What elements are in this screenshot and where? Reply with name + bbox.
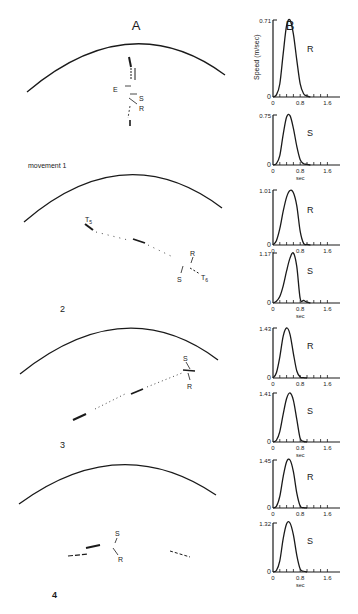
panel-a-label: A — [132, 18, 141, 33]
y-max-label: 1.45 — [259, 458, 271, 464]
y-max-label: 1.32 — [259, 521, 271, 527]
speed-axis-label: Speed (m/sec) — [253, 34, 261, 80]
speed-plot-1: 0.71000.81.6R — [259, 18, 340, 106]
y-max-label: 1.01 — [259, 188, 271, 194]
x-tick-label: 0.8 — [296, 248, 305, 254]
y-zero-label: 0 — [267, 504, 271, 511]
curve-label: R — [307, 44, 314, 54]
x-tick-label: 0.8 — [296, 511, 305, 517]
curve-label: S — [307, 128, 313, 138]
curve-label: S — [307, 536, 313, 546]
annotation-s: S — [139, 95, 144, 102]
x-tick-label: 0 — [271, 306, 275, 312]
curve-label: R — [307, 205, 314, 215]
annotation-e: E — [113, 86, 118, 93]
x-tick-label: 0.8 — [296, 168, 305, 174]
x-tick-label: 0.8 — [296, 306, 305, 312]
curve-label: R — [307, 472, 314, 482]
movement-4-label: 4 — [52, 590, 57, 600]
speed-plot-7: 1.45000.81.6R — [259, 458, 340, 517]
x-tick-label: 1.6 — [323, 381, 332, 387]
x-axis-label: sec — [296, 582, 305, 588]
x-tick-label: 0 — [271, 575, 275, 581]
y-zero-label: 0 — [267, 438, 271, 445]
annotation-s: S — [177, 276, 182, 283]
movement-1-diagram — [27, 44, 225, 126]
y-zero-label: 0 — [267, 299, 271, 306]
annotation-r: R — [118, 556, 123, 563]
x-tick-label: 1.6 — [323, 100, 332, 106]
annotation-s: S — [183, 355, 188, 362]
speed-curve — [273, 393, 307, 442]
x-tick-label: 1.6 — [323, 248, 332, 254]
y-zero-label: 0 — [267, 374, 271, 381]
y-zero-label: 0 — [267, 161, 271, 168]
x-axis-label: sec — [296, 175, 305, 181]
movement-1-label: movement 1 — [28, 162, 67, 169]
x-tick-label: 0 — [271, 100, 275, 106]
annotation-r: R — [139, 105, 144, 112]
curve-label: R — [307, 341, 314, 351]
curve-label: S — [307, 406, 313, 416]
y-zero-label: 0 — [267, 93, 271, 100]
speed-plot-8: 1.32000.81.6secS — [259, 521, 340, 588]
speed-curve — [273, 114, 310, 165]
x-tick-label: 0 — [271, 168, 275, 174]
x-tick-label: 1.6 — [323, 511, 332, 517]
speed-profile-plots: 0.71000.81.6R0.75000.81.6secS1.01000.81.… — [259, 18, 340, 588]
x-tick-label: 1.6 — [323, 445, 332, 451]
annotation-s: S — [115, 530, 120, 537]
y-max-label: 1.41 — [259, 391, 271, 397]
x-tick-label: 0 — [271, 381, 275, 387]
x-tick-label: 0 — [271, 445, 275, 451]
y-max-label: 1.17 — [259, 251, 271, 257]
speed-plot-2: 0.75000.81.6secS — [259, 113, 340, 181]
speed-plot-6: 1.41000.81.6secS — [259, 391, 340, 458]
movement-3-diagram — [20, 328, 218, 420]
speed-plot-3: 1.01000.81.6R — [259, 188, 340, 254]
x-tick-label: 0.8 — [296, 575, 305, 581]
y-max-label: 0.71 — [259, 18, 271, 24]
speed-curve — [273, 190, 310, 245]
curve-label: S — [307, 266, 313, 276]
y-max-label: 1.43 — [259, 326, 271, 332]
movement-4-diagram — [19, 465, 216, 557]
x-tick-label: 0.8 — [296, 381, 305, 387]
x-axis-label: sec — [296, 452, 305, 458]
y-zero-label: 0 — [267, 241, 271, 248]
movement-3-label: 3 — [60, 440, 65, 450]
speed-curve — [273, 253, 310, 303]
x-tick-label: 0 — [271, 511, 275, 517]
x-tick-label: 1.6 — [323, 168, 332, 174]
speed-plot-5: 1.43000.81.6R — [259, 326, 340, 387]
movement-2-diagram — [24, 175, 222, 274]
movement-2-label: 2 — [60, 304, 65, 314]
y-zero-label: 0 — [267, 568, 271, 575]
speed-curve — [273, 328, 307, 378]
annotation-r: R — [190, 250, 195, 257]
annotation-r: R — [187, 383, 192, 390]
figure: A B E S R movement 1 T5 R S T6 2 — [0, 0, 358, 614]
x-tick-label: 0.8 — [296, 445, 305, 451]
x-tick-label: 1.6 — [323, 306, 332, 312]
x-tick-label: 1.6 — [323, 575, 332, 581]
x-tick-label: 0.8 — [296, 100, 305, 106]
annotation-t6: T6 — [201, 274, 208, 283]
speed-plot-4: 1.17000.81.6secS — [259, 251, 340, 319]
speed-curve — [273, 522, 307, 572]
y-max-label: 0.75 — [259, 113, 271, 119]
x-axis-label: sec — [296, 313, 305, 319]
speed-curve — [273, 459, 307, 508]
